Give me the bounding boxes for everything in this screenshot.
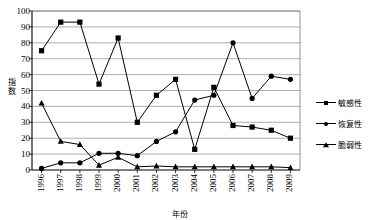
chart-legend: 敏感性 恢复性 脆弱性 — [316, 92, 382, 155]
chart-container: 指 数 年份 0102030405060708090100 1996199719… — [0, 0, 382, 220]
data-point-marker — [39, 48, 44, 53]
legend-label-vulnerability: 脆弱性 — [338, 139, 362, 150]
data-point-marker — [77, 160, 82, 165]
legend-item-sensitivity: 敏感性 — [316, 92, 382, 113]
series-敏感性 — [39, 20, 293, 152]
legend-label-resilience: 恢复性 — [338, 118, 362, 129]
data-point-marker — [39, 100, 45, 106]
series-line-敏感性 — [42, 22, 291, 149]
data-point-marker — [154, 139, 159, 144]
data-point-marker — [269, 128, 274, 133]
data-point-marker — [154, 93, 159, 98]
data-point-marker — [58, 160, 63, 165]
circle-marker-icon — [324, 122, 328, 126]
data-point-marker — [39, 166, 44, 171]
data-point-marker — [250, 124, 255, 129]
data-point-marker — [135, 120, 140, 125]
triangle-marker-icon — [323, 142, 329, 147]
data-point-marker — [58, 138, 64, 144]
series-脆弱性 — [39, 100, 294, 170]
data-point-marker — [135, 153, 140, 158]
legend-key-square — [316, 98, 336, 107]
data-point-marker — [288, 77, 293, 82]
data-point-marker — [192, 97, 197, 102]
data-point-marker — [211, 93, 216, 98]
legend-key-circle — [316, 119, 336, 128]
data-point-marker — [192, 147, 197, 152]
square-marker-icon — [324, 101, 328, 105]
data-point-marker — [58, 20, 63, 25]
series-line-脆弱性 — [42, 103, 291, 167]
data-point-marker — [96, 82, 101, 87]
data-point-marker — [173, 77, 178, 82]
series-恢复性 — [39, 40, 293, 171]
legend-item-resilience: 恢复性 — [316, 113, 382, 134]
data-point-marker — [288, 136, 293, 141]
data-point-marker — [250, 96, 255, 101]
data-point-marker — [269, 74, 274, 79]
series-line-恢复性 — [42, 43, 291, 169]
legend-item-vulnerability: 脆弱性 — [316, 134, 382, 155]
data-point-marker — [116, 35, 121, 40]
data-point-marker — [230, 40, 235, 45]
data-point-marker — [115, 154, 121, 160]
data-point-marker — [173, 129, 178, 134]
data-point-marker — [77, 20, 82, 25]
legend-label-sensitivity: 敏感性 — [338, 97, 362, 108]
data-point-marker — [96, 151, 101, 156]
legend-key-triangle — [316, 140, 336, 149]
data-point-marker — [230, 123, 235, 128]
